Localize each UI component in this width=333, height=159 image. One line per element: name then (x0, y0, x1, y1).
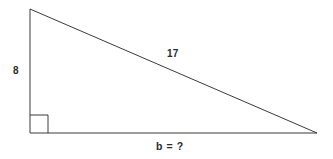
side-label-vertical-leg: 8 (13, 66, 19, 76)
right-triangle-figure: 8 17 b = ? (0, 0, 333, 159)
side-label-hypotenuse: 17 (167, 49, 179, 59)
right-angle-marker-icon (30, 115, 48, 133)
triangle-drawing (0, 0, 333, 159)
triangle-outline (30, 9, 317, 133)
side-label-horizontal-leg: b = ? (156, 141, 184, 152)
